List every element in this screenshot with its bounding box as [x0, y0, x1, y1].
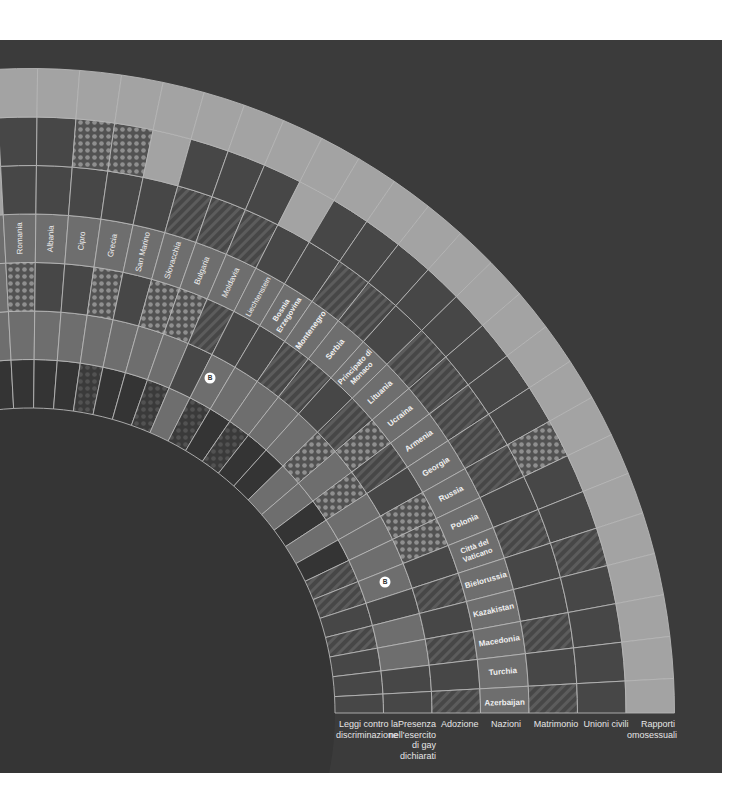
chart-cell [76, 70, 122, 123]
chart-cell [574, 642, 626, 683]
chart-panel: RomaniaAlbaniaCiproGreciaSan MarinoSlova… [0, 40, 722, 773]
chart-cell [34, 311, 61, 361]
svg-text:B: B [383, 578, 388, 585]
chart-cell [35, 263, 65, 313]
chart-cell [0, 117, 37, 166]
chart-cell [8, 311, 34, 360]
chart-cell [431, 689, 480, 713]
chart-cell [335, 694, 384, 713]
chart-cell [36, 166, 72, 216]
chart-cell [525, 648, 576, 686]
chart-cell [11, 359, 34, 408]
chart-cell [72, 119, 115, 171]
chart-cell [37, 69, 80, 119]
b-marker: B [205, 373, 216, 384]
b-marker: B [380, 577, 391, 588]
country-label: Albania [46, 225, 56, 253]
legend-discriminazione: Leggi contro la discriminazione [316, 719, 398, 740]
legend-unioni: Unioni civili [580, 719, 632, 730]
radial-chart: RomaniaAlbaniaCiproGreciaSan MarinoSlova… [0, 40, 722, 773]
chart-cell [577, 681, 626, 713]
legend-rapporti: Rapporti omosessuali [627, 719, 675, 740]
svg-text:B: B [208, 374, 213, 381]
legend-matrimonio: Matrimonio [530, 719, 582, 730]
country-label: Azerbaijan [484, 698, 525, 708]
chart-cell [528, 684, 577, 713]
chart-cell [1, 165, 37, 214]
chart-cell [383, 691, 432, 713]
chart-cell [6, 262, 35, 311]
chart-cell [625, 678, 674, 713]
chart-cell [429, 659, 480, 691]
legend-esercito: Presenza nell'esercito di gay dichiarati [388, 719, 436, 761]
chart-cell [622, 636, 674, 681]
country-label: Romania [15, 222, 25, 255]
legend-nazioni: Nazioni [481, 719, 531, 730]
chart-cell [36, 117, 76, 167]
chart-cell [0, 68, 38, 117]
chart-cell [616, 595, 670, 642]
